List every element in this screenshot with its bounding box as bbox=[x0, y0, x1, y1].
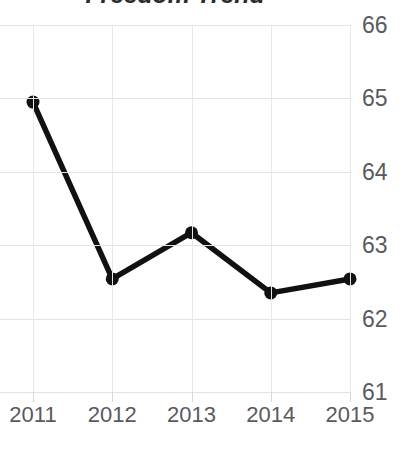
y-axis-tick-label: 63 bbox=[362, 232, 406, 259]
line-chart: Freedom Trend 61626364656620112012201320… bbox=[0, 0, 413, 454]
x-axis-tick-label: 2012 bbox=[67, 402, 157, 428]
gridline-horizontal bbox=[0, 25, 350, 26]
x-axis-tick-label: 2015 bbox=[305, 402, 395, 428]
x-axis-tick bbox=[192, 392, 193, 402]
y-axis-tick-label: 64 bbox=[362, 158, 406, 185]
gridline-vertical bbox=[350, 25, 351, 392]
gridline-horizontal bbox=[0, 319, 350, 320]
x-axis-tick bbox=[350, 392, 351, 402]
gridline-horizontal bbox=[0, 245, 350, 246]
plot-area bbox=[33, 25, 350, 392]
gridline-horizontal bbox=[0, 98, 350, 99]
y-axis-tick-label: 65 bbox=[362, 85, 406, 112]
x-axis-tick-label: 2014 bbox=[226, 402, 316, 428]
gridline-vertical bbox=[112, 25, 113, 392]
gridline-vertical bbox=[271, 25, 272, 392]
x-axis-tick-label: 2013 bbox=[147, 402, 237, 428]
gridline-vertical bbox=[192, 25, 193, 392]
gridline-vertical bbox=[33, 25, 34, 392]
x-axis-tick bbox=[112, 392, 113, 402]
gridline-horizontal bbox=[0, 172, 350, 173]
y-axis-tick-label: 62 bbox=[362, 305, 406, 332]
x-axis-tick bbox=[271, 392, 272, 402]
gridline-horizontal bbox=[0, 392, 350, 393]
x-axis-tick bbox=[33, 392, 34, 402]
y-axis-tick-label: 66 bbox=[362, 12, 406, 39]
data-series-line bbox=[0, 0, 413, 454]
